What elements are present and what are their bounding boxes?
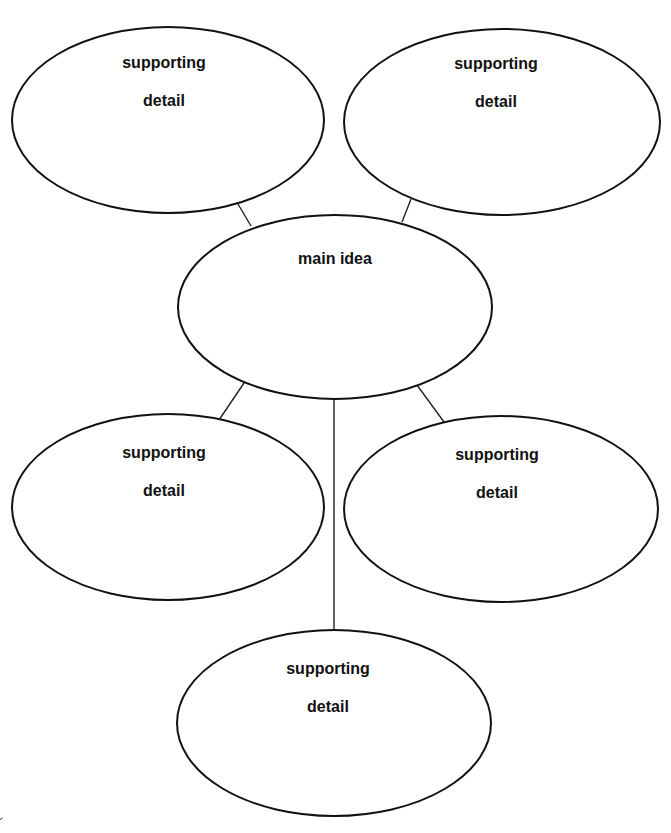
label-supporting-detail-top-right: supporting detail [396,35,596,130]
connector-top-right [402,199,411,222]
main-idea-text: main idea [235,249,435,268]
label-supporting-detail-top-left: supporting detail [64,34,264,129]
label-line-1: supporting [64,53,264,72]
label-line-2: detail [64,481,264,500]
label-supporting-detail-bottom: supporting detail [228,640,428,735]
label-line-1: supporting [397,445,597,464]
label-line-2: detail [396,92,596,111]
label-supporting-detail-middle-left: supporting detail [64,424,264,519]
label-supporting-detail-middle-right: supporting detail [397,426,597,521]
connector-middle-left [219,383,244,420]
label-line-2: detail [397,483,597,502]
label-main-idea: main idea [235,230,435,287]
label-line-1: supporting [64,443,264,462]
connector-top-left [238,204,251,226]
label-line-2: detail [228,697,428,716]
label-line-1: supporting [228,659,428,678]
label-line-2: detail [64,91,264,110]
connector-middle-right [417,385,444,422]
label-line-1: supporting [396,54,596,73]
